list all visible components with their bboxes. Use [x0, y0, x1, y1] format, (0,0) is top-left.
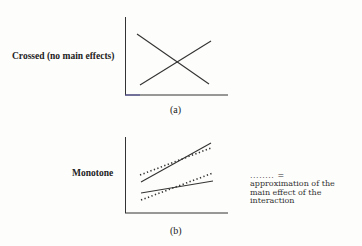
- plot-b: [125, 137, 228, 213]
- line-decreasing: [137, 34, 209, 84]
- legend-line-3: interaction: [250, 197, 335, 205]
- legend: ........ = approximation of the main eff…: [250, 172, 335, 205]
- interaction-plots: [0, 0, 362, 246]
- upper-solid-line: [141, 143, 211, 182]
- upper-dotted-line: [140, 148, 211, 175]
- plot-a: [125, 17, 228, 95]
